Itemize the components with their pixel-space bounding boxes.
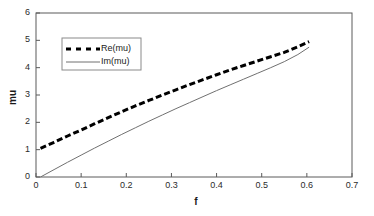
x-tick-label: 0	[21, 180, 51, 190]
y-axis-ticks	[36, 13, 40, 177]
y-tick-label: 5	[14, 34, 30, 44]
x-tick-label: 0.5	[247, 180, 277, 190]
y-tick-label: 1	[14, 144, 30, 154]
x-tick-label: 0.6	[292, 180, 322, 190]
x-axis-title: f	[176, 196, 216, 207]
y-tick-label: 3	[14, 89, 30, 99]
legend-label: Re(mu)	[101, 43, 131, 53]
y-tick-label: 4	[14, 62, 30, 72]
x-axis-ticks	[36, 173, 352, 177]
x-tick-label: 0.2	[111, 180, 141, 190]
chart-figure: mu f 00.10.20.30.40.50.60.70123456 Re(mu…	[0, 0, 374, 216]
x-tick-label: 0.7	[337, 180, 367, 190]
legend-label: Im(mu)	[101, 56, 130, 66]
x-tick-label: 0.4	[202, 180, 232, 190]
x-tick-label: 0.3	[156, 180, 186, 190]
y-tick-label: 6	[14, 7, 30, 17]
y-tick-label: 0	[14, 171, 30, 181]
x-tick-label: 0.1	[66, 180, 96, 190]
y-tick-label: 2	[14, 116, 30, 126]
